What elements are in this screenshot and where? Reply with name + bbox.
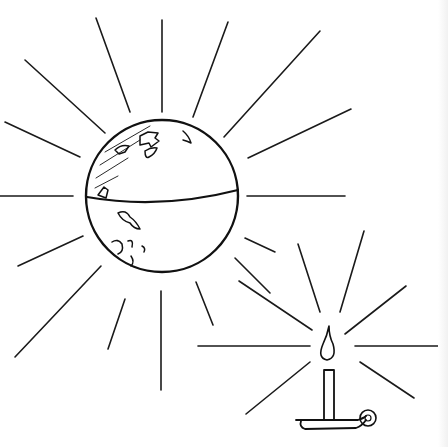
candle-ray — [345, 286, 406, 334]
sun-ray — [108, 299, 125, 349]
sun-ray — [96, 18, 130, 112]
continent-outline — [140, 132, 159, 147]
sun-ray — [25, 60, 105, 133]
candle-ray — [298, 244, 320, 312]
candle-icon — [296, 326, 376, 429]
globe-equator — [87, 190, 238, 202]
flame-icon — [321, 326, 334, 360]
sun-ray — [18, 236, 83, 266]
sun-ray — [196, 282, 213, 325]
continent-outline — [142, 246, 145, 252]
sun-ray — [193, 22, 228, 117]
continent-outline — [118, 212, 140, 229]
candle-ray — [340, 231, 364, 312]
sun-ray — [235, 258, 270, 293]
candle-ray — [360, 362, 414, 398]
globe-icon — [86, 120, 238, 272]
continent-outline — [128, 241, 133, 247]
candle-ray — [239, 281, 312, 330]
sun-rays — [0, 18, 351, 390]
continent-outline — [183, 131, 191, 143]
illustration-canvas — [0, 0, 448, 447]
continent-outline — [112, 240, 123, 254]
candle-ray — [246, 362, 310, 414]
globe-continents — [98, 131, 191, 266]
continent-outline — [115, 146, 129, 155]
sun-ray — [248, 109, 351, 158]
candle-holder — [296, 416, 366, 429]
shading-stroke — [96, 158, 128, 178]
continent-outline — [131, 256, 133, 266]
shading-stroke — [95, 176, 118, 188]
sun-ray — [224, 31, 320, 137]
candle-handle-inner — [365, 415, 371, 421]
continent-outline — [145, 148, 157, 158]
sun-ray — [5, 122, 80, 157]
candle-stick — [324, 370, 334, 420]
sun-ray — [15, 266, 101, 357]
continent-outline — [98, 187, 108, 198]
sun-ray — [245, 238, 275, 252]
page-edge-shadow — [438, 0, 448, 447]
